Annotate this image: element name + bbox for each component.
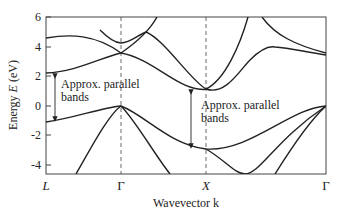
- svg-text:Γ: Γ: [117, 178, 125, 193]
- band-val-steep-left: [76, 106, 121, 174]
- svg-text:Γ: Γ: [322, 178, 330, 193]
- svg-text:X: X: [201, 178, 211, 193]
- svg-text:-2: -2: [31, 128, 41, 142]
- band-structure-diagram: 6 4 2 0 -2 -4 L Γ X Γ Wavevector k Energ…: [0, 0, 339, 214]
- band-top-right: [262, 17, 326, 53]
- svg-text:6: 6: [35, 10, 41, 24]
- svg-text:bands: bands: [201, 111, 229, 125]
- y-tick-labels: 6 4 2 0 -2 -4: [31, 10, 41, 172]
- band-x-steep: [206, 17, 248, 89]
- svg-text:Approx. parallel: Approx. parallel: [201, 98, 280, 112]
- svg-text:2: 2: [35, 69, 41, 83]
- band-val-gamma-steep: [121, 106, 170, 174]
- svg-text:-4: -4: [31, 158, 41, 172]
- band-cond-left: [46, 53, 121, 73]
- svg-text:Approx. parallel: Approx. parallel: [61, 77, 140, 91]
- y-ticks: [46, 17, 51, 165]
- svg-text:bands: bands: [61, 90, 89, 104]
- x-axis-title: Wavevector k: [153, 196, 219, 210]
- svg-text:L: L: [41, 178, 49, 193]
- annotation-right: Approx. parallel bands: [201, 98, 280, 125]
- svg-text:4: 4: [35, 40, 41, 54]
- annotation-left: Approx. parallel bands: [61, 77, 140, 104]
- y-axis-title: Energy E (eV): [6, 60, 20, 130]
- svg-text:0: 0: [35, 99, 41, 113]
- x-tick-labels: L Γ X Γ: [41, 178, 330, 193]
- band-val-left: [46, 106, 121, 122]
- band-val-steep-right: [275, 106, 326, 174]
